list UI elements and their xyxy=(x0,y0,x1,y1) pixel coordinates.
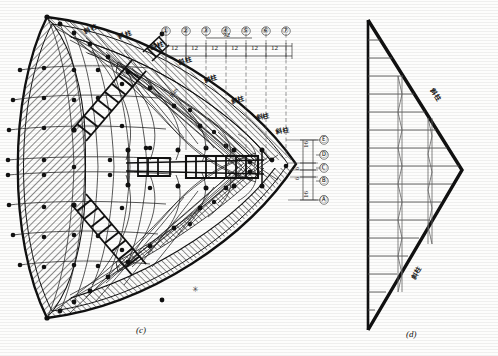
dimension-bay-4: 12 xyxy=(231,45,238,52)
figure-canvas: 斜柱 斜柱 斜柱 斜柱 斜柱 斜柱 斜柱 斜柱 16m ✳ ① ② ③ ④ ⑤ … xyxy=(0,0,498,356)
dimension-bay-3: 12 xyxy=(211,45,218,52)
grid-axis-label-D: Ⓓ xyxy=(320,151,327,159)
grid-axis-label-C: Ⓒ xyxy=(320,164,327,172)
grid-axis-label-A: Ⓐ xyxy=(320,196,327,204)
dimension-bay-1: 12 xyxy=(171,45,178,52)
grid-axis-label-1: ① xyxy=(162,27,169,35)
figure-caption-d: (d) xyxy=(406,330,417,339)
dimension-bay-B-A: 16 xyxy=(303,191,310,198)
dimension-bay-5: 12 xyxy=(251,45,258,52)
dimension-bay-2: 12 xyxy=(191,45,198,52)
grid-axis-label-6: ⑥ xyxy=(262,27,269,35)
center-mark-icon: ✳ xyxy=(192,286,199,294)
grid-axis-label-5: ⑤ xyxy=(242,27,249,35)
dimension-bay-D-C: 6 xyxy=(294,167,300,170)
dimension-bay-C-B: 6 xyxy=(294,177,300,180)
grid-axis-label-2: ② xyxy=(182,27,189,35)
dimension-bay-6: 12 xyxy=(271,45,278,52)
grid-axis-label-7: ⑦ xyxy=(282,27,289,35)
grid-axis-label-E: Ⓔ xyxy=(320,136,327,144)
grid-axis-label-B: Ⓑ xyxy=(320,177,327,185)
dimension-total-top: 72 xyxy=(223,32,230,39)
dimension-bay-E-D: 16 xyxy=(303,141,310,148)
figure-caption-c: (c) xyxy=(136,326,146,335)
grid-axis-label-3: ③ xyxy=(202,27,209,35)
drawing-vector-layer xyxy=(0,0,498,356)
